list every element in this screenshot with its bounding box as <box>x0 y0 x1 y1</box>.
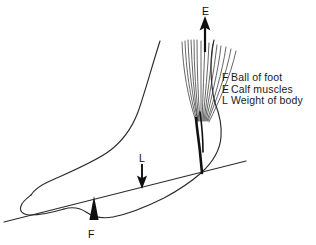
legend-item-l: LWeight of body <box>222 95 316 107</box>
legend: FBall of foot ECalf muscles LWeight of b… <box>222 72 316 107</box>
legend-key-l: L <box>222 95 231 107</box>
legend-text-f: Ball of foot <box>231 71 282 83</box>
legend-key-f: F <box>222 72 231 84</box>
figure-canvas: E L F FBall of foot ECalf muscles LWeigh… <box>0 0 316 245</box>
force-label-f: F <box>88 228 95 240</box>
foot-lever-diagram <box>0 0 316 245</box>
diagram-background <box>0 0 316 245</box>
force-label-e: E <box>202 5 209 17</box>
legend-text-e: Calf muscles <box>231 83 293 95</box>
legend-text-l: Weight of body <box>231 94 303 106</box>
force-label-l: L <box>139 152 145 164</box>
